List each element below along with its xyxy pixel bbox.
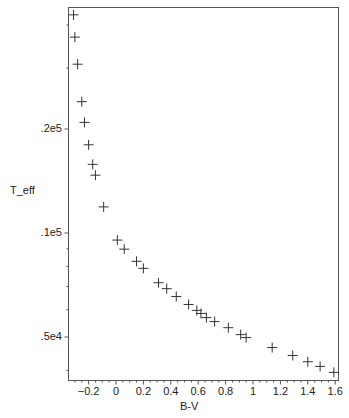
x-tick-label: 1.4 (293, 385, 323, 397)
x-tick-label: 1.2 (265, 385, 295, 397)
y-tick-label: .1e5 (22, 226, 62, 238)
data-point-plus-marker (73, 59, 83, 69)
data-point-plus-marker (329, 367, 339, 377)
x-tick-label: 0.8 (211, 385, 241, 397)
data-points (69, 10, 339, 378)
y-axis-ticks (65, 25, 69, 370)
x-tick-label: 1.6 (320, 385, 349, 397)
plot-frame (69, 8, 339, 381)
x-tick-label: 0.6 (183, 385, 213, 397)
data-point-plus-marker (88, 159, 98, 169)
x-tick-label: 1 (238, 385, 268, 397)
x-tick-label: −0.2 (74, 385, 104, 397)
data-point-plus-marker (171, 291, 181, 301)
data-point-plus-marker (70, 32, 80, 42)
y-axis-label: T_eff (10, 184, 35, 196)
data-point-plus-marker (112, 235, 122, 245)
data-point-plus-marker (77, 97, 87, 107)
data-point-plus-marker (69, 10, 79, 20)
data-point-plus-marker (99, 202, 109, 212)
data-point-plus-marker (90, 170, 100, 180)
x-tick-label: 0 (101, 385, 131, 397)
x-tick-label: 0.4 (156, 385, 186, 397)
data-point-plus-marker (132, 256, 142, 266)
data-point-plus-marker (223, 323, 233, 333)
data-point-plus-marker (138, 263, 148, 273)
y-tick-label: .2e5 (22, 122, 62, 134)
data-point-plus-marker (315, 361, 325, 371)
data-point-plus-marker (288, 350, 298, 360)
data-point-plus-marker (210, 317, 220, 327)
data-point-plus-marker (153, 278, 163, 288)
scatter-plot (0, 0, 349, 418)
data-point-plus-marker (162, 284, 172, 294)
x-tick-label: 0.2 (128, 385, 158, 397)
data-point-plus-marker (201, 313, 211, 323)
data-point-plus-marker (84, 140, 94, 150)
data-point-plus-marker (184, 299, 194, 309)
data-point-plus-marker (119, 244, 129, 254)
data-point-plus-marker (267, 343, 277, 353)
x-axis-ticks (75, 381, 335, 385)
data-point-plus-marker (241, 333, 251, 343)
y-tick-label: .5e4 (22, 330, 62, 342)
data-point-plus-marker (303, 357, 313, 367)
data-point-plus-marker (79, 117, 89, 127)
data-point-plus-marker (236, 330, 246, 340)
x-axis-label: B-V (180, 400, 198, 412)
